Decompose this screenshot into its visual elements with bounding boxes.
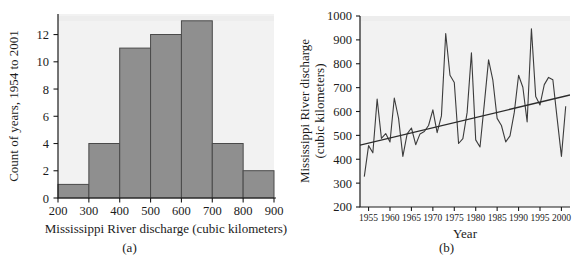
x-tick-label: 2000	[552, 213, 571, 223]
y-ticks-group	[356, 16, 360, 207]
panel-b-timeseries: 200 300 400 500 600 700 800 900 1000	[291, 0, 582, 269]
x-tick-label: 1980	[466, 213, 485, 223]
bar-500-600	[151, 35, 182, 199]
panel-a-caption: (a)	[0, 240, 275, 256]
x-tick-label: 1960	[381, 213, 400, 223]
y-tick-labels: 200 300 400 500 600 700 800 900 1000	[327, 9, 352, 214]
y-tick-label: 2	[43, 164, 49, 178]
y-tick-label: 10	[37, 55, 50, 69]
scan-artifact-band	[58, 16, 274, 21]
bar-200-300	[58, 184, 89, 198]
x-tick-labels: 1955 1960 1965 1970 1975 1980 1985 1990 …	[359, 213, 571, 223]
y-ticks-group	[54, 35, 59, 198]
x-tick-label: 600	[172, 204, 191, 218]
y-tick-label: 6	[43, 110, 49, 124]
bar-400-500	[120, 48, 151, 198]
y-tick-label: 300	[333, 177, 352, 191]
y-tick-label: 200	[333, 200, 352, 214]
bar-800-900	[243, 171, 274, 198]
x-ticks-group	[58, 198, 274, 203]
y-tick-label: 700	[333, 81, 352, 95]
y-axis-title-line2: (cubic kilometers)	[312, 64, 327, 159]
y-tick-label: 600	[333, 105, 352, 119]
timeseries-svg: 200 300 400 500 600 700 800 900 1000	[291, 0, 582, 240]
x-tick-labels: 200 300 400 500 600 700 800 900	[49, 204, 284, 218]
y-tick-label: 1000	[327, 9, 352, 23]
x-axis-title: Year	[453, 226, 478, 240]
y-tick-label: 800	[333, 57, 352, 71]
x-tick-label: 1955	[359, 213, 378, 223]
x-tick-label: 200	[49, 204, 68, 218]
plot-background	[360, 16, 570, 207]
y-tick-label: 4	[43, 137, 50, 151]
y-tick-label: 500	[333, 129, 352, 143]
y-tick-label: 8	[43, 83, 49, 97]
bar-700-800	[212, 144, 243, 199]
scan-artifact-band	[360, 16, 570, 21]
panel-a-histogram: 0 2 4 6 8 10 12 200 300	[0, 0, 291, 269]
x-tick-label: 1995	[531, 213, 550, 223]
x-tick-label: 1985	[488, 213, 507, 223]
y-axis-title-line1: Mississippi River discharge	[297, 39, 312, 183]
y-tick-label: 900	[333, 33, 352, 47]
x-tick-label: 700	[203, 204, 222, 218]
figure-container: 0 2 4 6 8 10 12 200 300	[0, 0, 582, 269]
x-tick-label: 1975	[445, 213, 464, 223]
bar-600-700	[181, 21, 212, 198]
x-tick-label: 300	[79, 204, 98, 218]
x-tick-label: 500	[141, 204, 160, 218]
bar-300-400	[89, 144, 120, 199]
x-axis-title: Mississippi River discharge (cubic kilom…	[45, 221, 287, 236]
x-tick-label: 1990	[509, 213, 528, 223]
y-tick-label: 400	[333, 153, 352, 167]
x-tick-label: 1965	[402, 213, 421, 223]
y-tick-labels: 0 2 4 6 8 10 12	[37, 28, 50, 205]
x-tick-label: 400	[110, 204, 129, 218]
x-tick-label: 1970	[423, 213, 442, 223]
histogram-svg: 0 2 4 6 8 10 12 200 300	[0, 0, 291, 240]
panel-b-caption: (b)	[301, 240, 582, 256]
x-tick-label: 900	[265, 204, 284, 218]
x-tick-label: 800	[234, 204, 253, 218]
y-axis-title: Count of years, 1954 to 2001	[6, 30, 21, 182]
y-tick-label: 12	[37, 28, 50, 42]
